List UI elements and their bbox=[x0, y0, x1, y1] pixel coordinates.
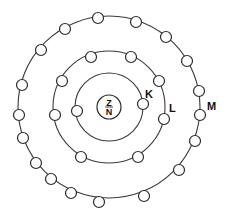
electron-m-1 bbox=[93, 13, 104, 24]
nucleus-neutron-label: N bbox=[106, 107, 113, 117]
shell-label-l: L bbox=[169, 102, 176, 114]
electron-k-1 bbox=[72, 106, 83, 117]
electron-m-18 bbox=[139, 191, 150, 202]
electron-l-2 bbox=[126, 52, 137, 63]
electron-m-14 bbox=[174, 165, 185, 176]
electron-m-13 bbox=[31, 158, 42, 169]
electron-m-8 bbox=[194, 86, 205, 97]
electron-l-7 bbox=[76, 152, 87, 163]
electron-l-5 bbox=[50, 110, 61, 121]
electron-m-12 bbox=[190, 136, 201, 147]
electron-m-10 bbox=[195, 110, 206, 121]
shell-label-m: M bbox=[207, 100, 216, 112]
electron-l-4 bbox=[154, 76, 165, 87]
electron-m-9 bbox=[14, 110, 25, 121]
electron-m-3 bbox=[60, 24, 71, 35]
atom-diagram: Z N KLM bbox=[0, 0, 228, 217]
electron-l-3 bbox=[57, 76, 68, 87]
electron-m-2 bbox=[131, 17, 142, 28]
shell-label-group: KLM bbox=[145, 88, 216, 114]
electron-l-8 bbox=[133, 152, 144, 163]
electron-m-4 bbox=[161, 32, 172, 43]
electron-m-17 bbox=[94, 197, 105, 208]
electron-m-15 bbox=[46, 174, 57, 185]
electron-m-5 bbox=[36, 45, 47, 56]
nucleus: Z N bbox=[97, 95, 121, 119]
electron-m-11 bbox=[18, 133, 29, 144]
shell-label-k: K bbox=[145, 88, 153, 100]
electron-m-6 bbox=[182, 56, 193, 67]
electron-m-7 bbox=[17, 80, 28, 91]
electron-l-6 bbox=[159, 114, 170, 125]
electron-m-16 bbox=[66, 188, 77, 199]
electron-k-2 bbox=[138, 99, 149, 110]
electron-l-1 bbox=[86, 52, 97, 63]
